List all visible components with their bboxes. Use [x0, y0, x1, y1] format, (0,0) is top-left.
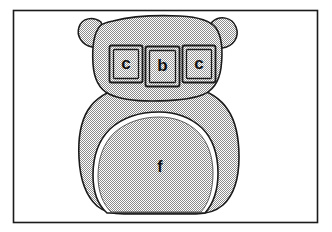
bear-figure: f c b c — [78, 16, 239, 214]
block-right: c — [183, 46, 216, 83]
belly-letter: f — [157, 158, 163, 175]
bear-illustration: f c b c — [0, 0, 332, 232]
belly-patch — [93, 112, 218, 213]
block-left: c — [110, 46, 143, 83]
letter-blocks: c b c — [110, 46, 216, 87]
block-center: b — [146, 47, 180, 87]
block-left-letter: c — [121, 54, 130, 73]
block-right-letter: c — [194, 54, 203, 73]
illustration-canvas: f c b c — [0, 0, 332, 232]
block-center-letter: b — [157, 56, 167, 75]
